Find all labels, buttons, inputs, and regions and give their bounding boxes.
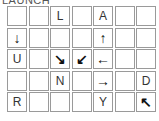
grid-cell[interactable]: N	[50, 71, 70, 91]
grid-cell[interactable]	[72, 92, 92, 112]
grid-cell[interactable]	[29, 28, 49, 48]
grid-cell[interactable]: L	[50, 6, 70, 26]
grid-cell[interactable]: U	[7, 49, 27, 69]
grid-cell[interactable]: D	[136, 71, 156, 91]
grid-cell[interactable]	[29, 92, 49, 112]
grid-cell[interactable]	[136, 49, 156, 69]
grid-cell[interactable]	[29, 71, 49, 91]
grid-cell[interactable]: ↑	[93, 28, 113, 48]
grid-cell[interactable]: →	[93, 71, 113, 91]
grid-cell[interactable]	[136, 6, 156, 26]
grid-cell[interactable]	[7, 6, 27, 26]
grid-cell[interactable]	[7, 71, 27, 91]
grid-cell[interactable]: Y	[93, 92, 113, 112]
grid-cell[interactable]	[50, 92, 70, 112]
grid-cell[interactable]	[115, 92, 135, 112]
grid-cell[interactable]	[29, 6, 49, 26]
grid-cell[interactable]: ↖	[136, 92, 156, 112]
grid-cell[interactable]: ↘	[50, 49, 70, 69]
grid-cell[interactable]: ↓	[7, 28, 27, 48]
grid-cell[interactable]	[50, 28, 70, 48]
grid-cell[interactable]	[72, 71, 92, 91]
grid-cell[interactable]: ←	[93, 49, 113, 69]
grid-cell[interactable]	[115, 28, 135, 48]
word-grid: LA↓↑U↘↙←N→DRY↖	[7, 6, 156, 112]
grid-cell[interactable]: R	[7, 92, 27, 112]
grid-cell[interactable]	[72, 28, 92, 48]
grid-cell[interactable]	[136, 28, 156, 48]
grid-cell[interactable]	[72, 6, 92, 26]
grid-cell[interactable]: ↙	[72, 49, 92, 69]
grid-cell[interactable]: A	[93, 6, 113, 26]
grid-cell[interactable]	[29, 49, 49, 69]
grid-cell[interactable]	[115, 71, 135, 91]
grid-cell[interactable]	[115, 6, 135, 26]
grid-cell[interactable]	[115, 49, 135, 69]
